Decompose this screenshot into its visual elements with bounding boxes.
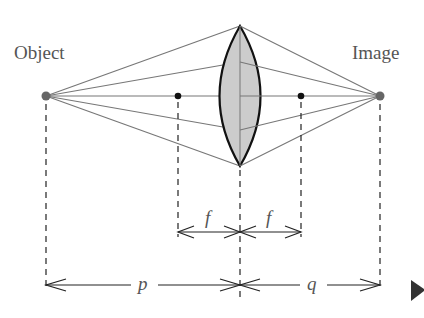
dashed-guides [46, 102, 380, 297]
focal-length-label-right: f [266, 207, 274, 228]
object-point [42, 92, 51, 101]
next-arrow-icon[interactable] [411, 280, 424, 301]
incident-rays [46, 26, 240, 166]
lens-diagram: Object Image f f p q [0, 0, 424, 318]
distance-dimensions [46, 279, 380, 291]
image-distance-label: q [307, 273, 317, 294]
image-point [376, 92, 385, 101]
focal-point-left [175, 93, 182, 100]
object-label: Object [14, 42, 65, 63]
focal-length-label-left: f [205, 207, 213, 228]
object-distance-label: p [136, 273, 148, 294]
focal-point-right [298, 93, 305, 100]
image-label: Image [352, 42, 399, 63]
